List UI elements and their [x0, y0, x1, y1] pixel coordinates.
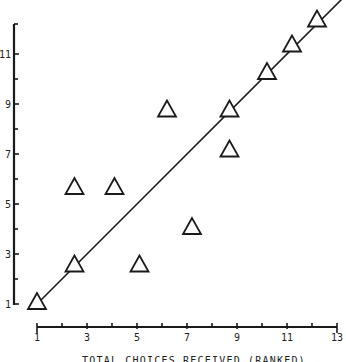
- x-tick-label: 9: [234, 332, 240, 343]
- y-axis: 1357911: [0, 24, 19, 310]
- y-tick-label: 9: [5, 99, 11, 110]
- x-tick-label: 13: [331, 332, 343, 343]
- triangle-marker: [106, 178, 124, 194]
- y-tick-label: 7: [5, 149, 11, 160]
- triangle-marker: [221, 101, 239, 117]
- scatter-chart: 1357911 135791113 TOTAL CHOICES RECEIVED…: [0, 0, 346, 362]
- data-points: [28, 11, 326, 310]
- x-tick-label: 5: [134, 332, 140, 343]
- triangle-marker: [221, 141, 239, 157]
- triangle-marker: [66, 178, 84, 194]
- y-tick-label: 3: [5, 249, 11, 260]
- triangle-marker: [183, 218, 201, 234]
- x-axis: 135791113: [34, 323, 343, 343]
- y-tick-label: 11: [0, 49, 11, 60]
- triangle-marker: [258, 63, 276, 79]
- x-tick-label: 1: [34, 332, 40, 343]
- y-tick-label: 1: [5, 299, 11, 310]
- triangle-marker: [66, 256, 84, 272]
- triangle-marker: [28, 293, 46, 309]
- y-tick-label: 5: [5, 199, 11, 210]
- identity-line: [37, 0, 346, 304]
- x-tick-label: 3: [84, 332, 90, 343]
- x-tick-label: 7: [184, 332, 190, 343]
- triangle-marker: [131, 256, 149, 272]
- triangle-marker: [158, 101, 176, 117]
- x-axis-label: TOTAL CHOICES RECEIVED (RANKED): [82, 355, 306, 362]
- reference-line: [37, 0, 346, 304]
- x-tick-label: 11: [281, 332, 293, 343]
